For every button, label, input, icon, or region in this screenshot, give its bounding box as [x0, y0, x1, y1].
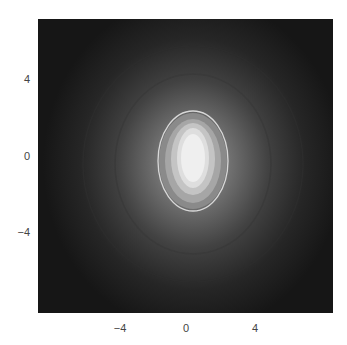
- heatmap-canvas: [38, 19, 333, 313]
- x-tick-4: 4: [240, 322, 270, 334]
- y-tick-4: 4: [0, 73, 30, 85]
- x-tick-0: 0: [171, 322, 201, 334]
- y-tick-0: 0: [0, 150, 30, 162]
- x-tick-neg4: −4: [105, 322, 135, 334]
- heatmap-plot-area: [38, 19, 333, 313]
- y-tick-neg4: −4: [0, 226, 30, 238]
